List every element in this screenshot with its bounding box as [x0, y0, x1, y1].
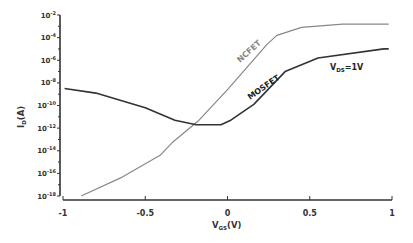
y-axis-title: ID(A)	[16, 106, 27, 128]
y-tick-label: 10-14	[37, 145, 56, 155]
x-tick-label: -1	[59, 209, 68, 218]
x-tick-label: 0.5	[303, 209, 318, 218]
axes: 10-210-410-610-810-1010-1210-1410-1610-1…	[37, 10, 395, 219]
series-lines	[65, 24, 389, 196]
ncfet-curve	[81, 24, 389, 196]
x-tick-label: 1	[389, 209, 395, 218]
mosfet-curve	[65, 49, 389, 125]
y-tick-label: 10-18	[37, 191, 56, 201]
y-tick-label: 10-12	[37, 123, 56, 133]
y-tick-label: 10-6	[41, 55, 57, 65]
y-tick-label: 10-10	[37, 100, 56, 110]
vds-annotation: VDS=1V	[330, 63, 364, 73]
y-tick-label: 10-16	[37, 168, 56, 178]
x-axis-title: VGS(V)	[212, 220, 242, 231]
y-tick-label: 10-2	[41, 10, 57, 20]
x-tick-label: 0	[225, 209, 231, 218]
y-tick-label: 10-4	[41, 32, 57, 42]
mosfet-label: MOSFET	[246, 73, 282, 102]
ncfet-label: NCFET	[235, 38, 263, 64]
id-vgs-chart: 10-210-410-610-810-1010-1210-1410-1610-1…	[0, 0, 413, 243]
y-tick-label: 10-8	[41, 77, 57, 87]
annotations: NCFET MOSFET VDS=1V VGS(V) ID(A)	[16, 38, 364, 231]
x-tick-label: -0.5	[137, 209, 155, 218]
